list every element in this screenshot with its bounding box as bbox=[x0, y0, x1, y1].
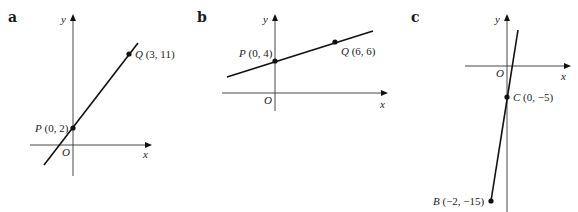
line-graphs-figure: a y x O P (0, 2) Q (3, 11) b y x O P (0,… bbox=[0, 0, 578, 212]
y-axis-arrow-icon bbox=[504, 14, 510, 21]
x-axis-arrow-icon bbox=[564, 63, 571, 69]
x-axis-label: x bbox=[379, 98, 385, 110]
y-axis-arrow-icon bbox=[70, 14, 76, 21]
panel-b: b y x O P (0, 4) Q (6, 6) bbox=[197, 9, 388, 111]
point-q-label: Q (6, 6) bbox=[341, 45, 376, 58]
graph-line bbox=[44, 43, 138, 165]
point-b bbox=[488, 198, 493, 203]
x-axis-arrow-icon bbox=[381, 90, 388, 96]
y-axis-label: y bbox=[60, 13, 66, 25]
y-axis-arrow-icon bbox=[272, 14, 278, 21]
origin-label: O bbox=[264, 94, 272, 106]
point-p bbox=[272, 58, 277, 63]
point-c-label: C (0, −5) bbox=[513, 91, 553, 104]
panel-a: a y x O P (0, 2) Q (3, 11) bbox=[8, 9, 175, 176]
panel-label: b bbox=[197, 9, 207, 25]
panel-label: a bbox=[8, 9, 17, 25]
point-p bbox=[70, 125, 75, 130]
point-q-label: Q (3, 11) bbox=[135, 48, 175, 61]
x-axis-label: x bbox=[142, 148, 148, 160]
y-axis-label: y bbox=[494, 13, 500, 25]
graph-line bbox=[491, 30, 518, 201]
y-axis-label: y bbox=[262, 13, 268, 25]
point-q bbox=[332, 39, 337, 44]
panel-c: c y x O C (0, −5) B (−2, −15) bbox=[411, 9, 571, 212]
point-b-label: B (−2, −15) bbox=[433, 195, 485, 208]
origin-label: O bbox=[496, 67, 504, 79]
x-axis-label: x bbox=[560, 70, 566, 82]
point-c bbox=[504, 94, 509, 99]
panel-label: c bbox=[411, 9, 420, 25]
point-q bbox=[126, 51, 131, 56]
point-p-label: P (0, 2) bbox=[34, 122, 69, 135]
origin-label: O bbox=[62, 146, 70, 158]
point-p-label: P (0, 4) bbox=[238, 47, 273, 60]
